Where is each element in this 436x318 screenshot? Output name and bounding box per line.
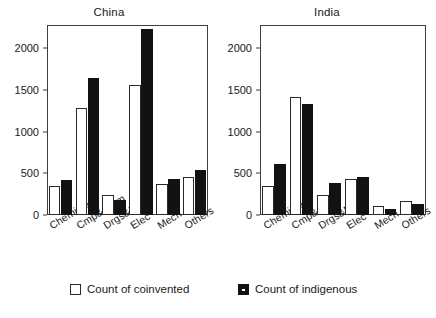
legend-swatch-coinvented-icon <box>70 284 81 295</box>
bar-india-drgs-med-indigenous <box>329 183 341 215</box>
y-tick-label: 1500 <box>212 84 252 96</box>
bar-china-cmp-cmm-coinvented <box>76 108 88 216</box>
bar-india-cmp-cmm-indigenous <box>302 104 314 215</box>
panel-india: India 0500100015002000 ChemicalCmp&CmmDr… <box>218 0 436 276</box>
y-tick-label: 1000 <box>0 126 39 138</box>
bar-china-mech-indigenous <box>168 179 180 215</box>
bar-india-elec-indigenous <box>357 177 369 215</box>
x-axis-labels-china: ChemicalCmp&CmmDrgs&MedElecMechOthers <box>0 215 218 276</box>
legend-label-indigenous: Count of indigenous <box>255 283 357 295</box>
y-tick-label: 500 <box>0 167 39 179</box>
y-tick-label: 1500 <box>0 84 39 96</box>
panel-container: China 0500100015002000 ChemicalCmp&CmmDr… <box>0 0 436 276</box>
bar-india-chemical-indigenous <box>274 164 286 215</box>
y-tick-label: 500 <box>212 167 252 179</box>
legend-entry-indigenous: Count of indigenous <box>238 283 357 295</box>
bar-china-drgs-med-indigenous <box>114 200 126 215</box>
bar-india-others-indigenous <box>412 204 424 215</box>
bar-india-mech-coinvented <box>373 206 385 215</box>
bar-china-mech-coinvented <box>156 184 168 215</box>
bar-india-mech-indigenous <box>385 209 397 215</box>
y-tick-label: 2000 <box>212 42 252 54</box>
bar-china-cmp-cmm-indigenous <box>88 78 100 216</box>
y-tick-label: 1000 <box>212 126 252 138</box>
legend-label-coinvented: Count of coinvented <box>87 283 189 295</box>
x-axis-labels-india: ChemicalCmp&CmmDrgs&MedElecMechOthers <box>218 215 436 276</box>
legend-entry-coinvented: Count of coinvented <box>70 283 189 295</box>
bar-india-chemical-coinvented <box>262 186 274 215</box>
panel-china: China 0500100015002000 ChemicalCmp&CmmDr… <box>0 0 218 276</box>
bar-india-others-coinvented <box>400 201 412 215</box>
y-tick-label: 2000 <box>0 42 39 54</box>
bar-china-others-indigenous <box>195 170 207 215</box>
bar-china-elec-indigenous <box>141 29 153 215</box>
bar-china-elec-coinvented <box>129 85 141 215</box>
bar-china-chemical-indigenous <box>61 180 73 215</box>
bar-india-drgs-med-coinvented <box>317 195 329 215</box>
legend-swatch-indigenous-icon <box>238 284 249 295</box>
bar-china-others-coinvented <box>183 177 195 215</box>
bar-china-chemical-coinvented <box>49 186 61 215</box>
bar-india-elec-coinvented <box>345 179 357 215</box>
chart-figure: China 0500100015002000 ChemicalCmp&CmmDr… <box>0 0 436 318</box>
bar-china-drgs-med-coinvented <box>102 195 114 215</box>
bars-india <box>260 25 426 215</box>
bars-china <box>47 25 208 215</box>
bar-india-cmp-cmm-coinvented <box>290 97 302 215</box>
chart-legend: Count of coinvented Count of indigenous <box>0 283 436 311</box>
